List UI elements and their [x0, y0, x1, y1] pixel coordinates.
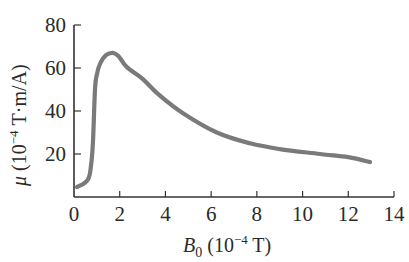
mu-vs-b0-chart: 02468101214 20406080 B0(10−4 T) μ(10−4 T…	[0, 0, 409, 262]
mu-curve	[77, 53, 370, 187]
y-tick-label: 20	[45, 142, 66, 166]
x-tick-label: 12	[338, 202, 359, 226]
x-tick-label: 0	[69, 202, 80, 226]
y-tick-label: 40	[45, 99, 66, 123]
axes: 02468101214 20406080	[45, 13, 405, 226]
x-tick-label: 2	[114, 202, 125, 226]
x-tick-label: 14	[384, 202, 406, 226]
x-tick-label: 10	[292, 202, 313, 226]
x-tick-label: 4	[160, 202, 171, 226]
x-tick-label: 8	[252, 202, 263, 226]
x-axis-title: B0(10−4 T)	[183, 232, 271, 260]
y-tick-label: 80	[45, 13, 66, 37]
y-axis-title: μ(10−4 T·m/A)	[6, 64, 31, 187]
y-tick-label: 60	[45, 56, 66, 80]
x-tick-label: 6	[206, 202, 217, 226]
y-ticks: 20406080	[45, 13, 81, 166]
